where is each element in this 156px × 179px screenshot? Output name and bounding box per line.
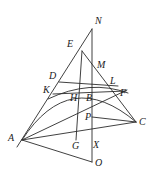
segment-A-O (22, 140, 92, 162)
segment-A-N (17, 29, 92, 147)
point-label-M: M (97, 60, 105, 70)
point-label-L: L (110, 76, 116, 86)
point-label-D: D (49, 71, 56, 81)
point-label-X: X (93, 140, 99, 150)
segment-P-C (92, 117, 136, 122)
point-label-K: K (43, 85, 50, 95)
point-label-N: N (95, 16, 102, 26)
arc-A-B-C (22, 98, 136, 140)
point-label-P: P (85, 112, 91, 122)
diagram-canvas (0, 0, 156, 179)
geometry-diagram: N E M D L K H B F P C A G X O (0, 0, 156, 179)
point-label-E: E (67, 39, 73, 49)
point-label-F: F (120, 88, 126, 98)
point-label-B: B (86, 93, 92, 103)
point-label-G: G (72, 141, 79, 151)
point-label-O: O (95, 158, 102, 168)
point-label-H: H (70, 93, 77, 103)
point-label-A: A (8, 133, 14, 143)
point-label-C: C (139, 117, 146, 127)
segment-A-C (22, 122, 136, 140)
